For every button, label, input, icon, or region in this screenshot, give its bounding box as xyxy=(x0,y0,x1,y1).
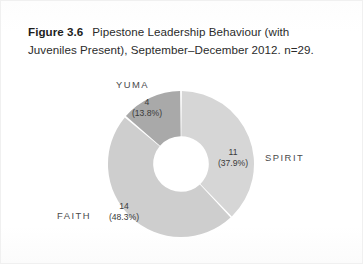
slice-count-yuma: 4 xyxy=(124,97,170,108)
donut-chart: YUMA SPIRIT FAITH 4 (13.8%) 11 (37.9%) 1… xyxy=(1,79,363,255)
slice-label-yuma: YUMA xyxy=(116,79,149,90)
slice-count-faith: 14 xyxy=(98,201,150,212)
figure-caption: Figure 3.6Pipestone Leadership Behaviour… xyxy=(28,23,334,58)
slice-percent-spirit: (37.9%) xyxy=(207,158,259,169)
figure-number: Figure 3.6 xyxy=(28,25,83,38)
slice-percent-faith: (48.3%) xyxy=(98,212,150,223)
slice-count-spirit: 11 xyxy=(207,147,259,158)
slice-value-faith: 14 (48.3%) xyxy=(98,201,150,223)
slice-value-yuma: 4 (13.8%) xyxy=(124,97,170,119)
slice-value-spirit: 11 (37.9%) xyxy=(207,147,259,169)
slice-percent-yuma: (13.8%) xyxy=(124,108,170,119)
slice-label-spirit: SPIRIT xyxy=(265,152,304,163)
slice-label-faith: FAITH xyxy=(57,210,91,221)
figure-page: Figure 3.6Pipestone Leadership Behaviour… xyxy=(0,0,363,264)
